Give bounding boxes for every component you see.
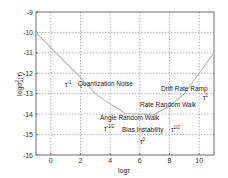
- ytick-label: -12: [23, 70, 33, 77]
- y-tick-labels: -9 -10 -11 -12 -13 -14 -15 -16: [23, 9, 33, 159]
- rate-random-walk-label: Rate Random Walk: [140, 101, 197, 108]
- ytick-label: -15: [23, 131, 33, 138]
- x-axis-label: logτ: [118, 167, 130, 175]
- angle-random-walk-label: Angle Random Walk: [100, 114, 160, 122]
- ytick-label: -11: [23, 49, 33, 56]
- ytick-label: -13: [23, 90, 33, 97]
- bias-instability-label: Bias Instability: [122, 126, 164, 134]
- quantization-noise-label: Quantization Noise: [78, 80, 133, 88]
- ytick-label: -14: [23, 111, 33, 118]
- xtick-label: 6: [138, 157, 142, 164]
- xtick-label: 0: [49, 157, 53, 164]
- allan-variance-chart: -9 -10 -11 -12 -13 -14 -15 -16 0 2 4 6 8…: [0, 0, 228, 178]
- xtick-label: 2: [79, 157, 83, 164]
- xtick-label: 4: [108, 157, 112, 164]
- x-tick-labels: 0 2 4 6 8 10: [49, 157, 203, 164]
- ytick-label: -10: [23, 29, 33, 36]
- ytick-label: -16: [23, 152, 33, 159]
- ytick-label: -9: [27, 9, 33, 16]
- xtick-label: 8: [168, 157, 172, 164]
- drift-rate-ramp-label: Drift Rate Ramp: [161, 85, 208, 93]
- xtick-label: 10: [195, 157, 203, 164]
